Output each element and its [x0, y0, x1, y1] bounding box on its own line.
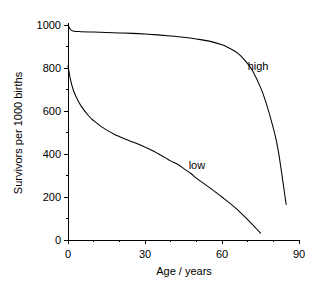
series-line-high: [68, 25, 286, 205]
chart-canvas: 02004006008001000 0306090 highlow Age / …: [0, 0, 317, 284]
data-series-group: [68, 25, 286, 233]
series-label-low: low: [189, 159, 206, 171]
x-tick-label: 90: [293, 248, 305, 260]
x-tick-label: 60: [216, 248, 228, 260]
y-tick-label: 200: [43, 191, 61, 203]
y-tick-label: 1000: [37, 19, 61, 31]
y-tick-label: 400: [43, 148, 61, 160]
y-axis-title: Survivors per 1000 births: [12, 71, 24, 194]
x-axis-title: Age / years: [156, 265, 212, 277]
series-annotations-group: highlow: [189, 60, 269, 171]
x-axis: 0306090: [65, 240, 305, 260]
x-tick-label: 0: [65, 248, 71, 260]
series-label-high: high: [248, 60, 269, 72]
y-tick-label: 0: [55, 234, 61, 246]
series-line-low: [68, 66, 261, 233]
y-axis: 02004006008001000: [37, 19, 68, 246]
x-tick-labels: 0306090: [65, 248, 305, 260]
survivorship-chart: 02004006008001000 0306090 highlow Age / …: [0, 0, 317, 284]
x-tick-label: 30: [139, 248, 151, 260]
y-tick-label: 600: [43, 105, 61, 117]
y-tick-labels: 02004006008001000: [37, 19, 61, 246]
x-major-ticks: [68, 240, 299, 244]
y-tick-label: 800: [43, 62, 61, 74]
